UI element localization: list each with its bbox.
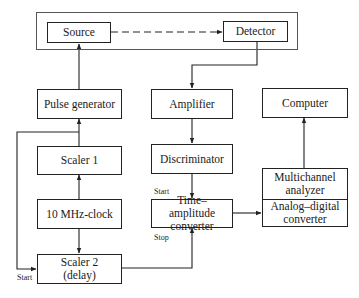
scaler1-label: Scaler 1: [61, 154, 98, 167]
amplifier-box: Amplifier: [151, 89, 233, 119]
discriminator-box: Discriminator: [151, 144, 233, 174]
source-label: Source: [63, 26, 95, 39]
multichannel-analyzer-label: Multichannel analyzer: [267, 171, 343, 197]
clock-label: 10 MHz-clock: [46, 208, 113, 221]
tac-box: Time–amplitude converter: [151, 199, 233, 228]
clock-box: 10 MHz-clock: [37, 199, 122, 229]
source-box: Source: [47, 22, 111, 43]
tac-stop-label: Stop: [154, 233, 169, 242]
scaler2-box: Scaler 2 (delay): [37, 254, 122, 284]
scaler2-start-label: Start: [17, 273, 32, 282]
amplifier-label: Amplifier: [169, 98, 214, 111]
computer-label: Computer: [282, 97, 328, 110]
computer-box: Computer: [262, 88, 348, 118]
multichannel-analyzer-box: Multichannel analyzer: [262, 168, 348, 200]
adc-label: Analog–digital converter: [269, 200, 341, 226]
pulse-generator-label: Pulse generator: [44, 98, 115, 111]
detector-label: Detector: [236, 25, 276, 38]
detector-box: Detector: [223, 21, 288, 42]
scaler2-label: Scaler 2 (delay): [56, 256, 103, 282]
adc-box: Analog–digital converter: [262, 199, 348, 227]
scaler1-box: Scaler 1: [37, 146, 122, 175]
tac-start-label: Start: [154, 187, 169, 196]
discriminator-label: Discriminator: [160, 153, 224, 166]
pulse-generator-box: Pulse generator: [37, 89, 122, 119]
tac-label: Time–amplitude converter: [155, 194, 229, 233]
